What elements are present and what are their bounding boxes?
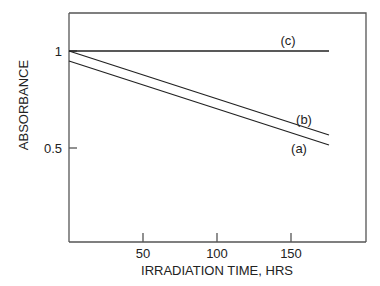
series-b-label: (b) xyxy=(296,112,312,127)
x-axis-label: IRRADIATION TIME, HRS xyxy=(141,263,293,278)
x-tick-label-150: 150 xyxy=(280,246,302,261)
series-a-label: (a) xyxy=(291,141,307,156)
x-tick-label-100: 100 xyxy=(206,246,228,261)
series-c-label: (c) xyxy=(280,33,295,48)
y-axis-label: ABSORBANCE xyxy=(16,60,31,151)
series-b-line xyxy=(69,51,329,135)
absorbance-chart: 1 0.5 50 100 150 IRRADIATION TIME, HRS A… xyxy=(0,0,380,286)
plot-frame xyxy=(69,13,366,242)
x-tick-label-50: 50 xyxy=(136,246,150,261)
y-tick-label-0.5: 0.5 xyxy=(44,141,62,156)
series-a-line xyxy=(69,61,329,145)
y-tick-label-1: 1 xyxy=(55,44,62,59)
